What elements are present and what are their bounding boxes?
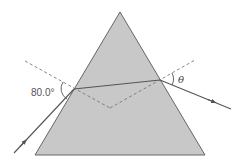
exit-ray-arrow — [208, 100, 214, 102]
incident-ray-arrow — [20, 141, 25, 146]
exit-angle-label: θ — [178, 74, 184, 85]
prism-refraction-diagram: 80.0° θ — [0, 0, 245, 163]
exit-angle-arc — [172, 73, 173, 85]
incident-angle-label: 80.0° — [31, 87, 54, 98]
incident-angle-arc — [61, 82, 67, 99]
